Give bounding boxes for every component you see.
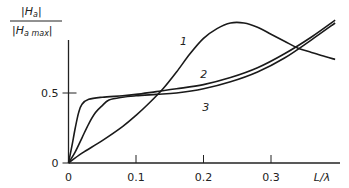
- series-group: [69, 20, 336, 163]
- series-label-1: 1: [180, 35, 187, 48]
- series-line-2: [69, 20, 336, 163]
- series-label-3: 3: [202, 101, 209, 114]
- y-label-numerator: |Ha|: [21, 5, 42, 19]
- x-tick-label: 0.2: [195, 171, 213, 184]
- x-tick-label: 0.1: [127, 171, 145, 184]
- series-line-1: [69, 22, 336, 163]
- axes: 00.10.20.300.5L/λ: [41, 40, 340, 184]
- chart: |Ha| |Ha max| 00.10.20.300.5L/λ 123: [0, 0, 349, 188]
- y-tick-label: 0.5: [41, 87, 59, 100]
- series-label-2: 2: [200, 68, 207, 81]
- x-tick-label: 0.3: [262, 171, 280, 184]
- y-label-denominator: |Ha max|: [12, 24, 53, 38]
- y-axis-label: |Ha| |Ha max|: [10, 5, 62, 38]
- x-axis-label: L/λ: [314, 171, 330, 184]
- y-tick-label: 0: [52, 157, 59, 170]
- x-tick-label: 0: [65, 171, 72, 184]
- series-line-3: [69, 23, 336, 163]
